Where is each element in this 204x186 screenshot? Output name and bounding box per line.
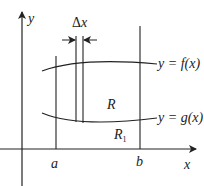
curve-f-label: y = f(x) bbox=[158, 57, 200, 71]
region-R1-label: R1 bbox=[114, 128, 127, 144]
curve-g-label: y = g(x) bbox=[158, 111, 203, 125]
bound-a-label: a bbox=[51, 157, 58, 171]
delta-var: x bbox=[81, 15, 87, 30]
diagram-graphics bbox=[0, 0, 204, 186]
x-axis-label: x bbox=[184, 158, 190, 172]
y-axis-label: y bbox=[28, 12, 34, 26]
bound-b-label: b bbox=[136, 155, 143, 169]
region-R1-subscript: 1 bbox=[123, 135, 127, 144]
area-between-curves-diagram: y x Δx y = f(x) y = g(x) R R1 a b bbox=[0, 0, 204, 186]
delta-symbol: Δ bbox=[72, 15, 81, 30]
delta-x-label: Δx bbox=[72, 16, 87, 30]
region-R-label: R bbox=[107, 98, 116, 112]
region-R1-main: R bbox=[114, 127, 123, 142]
